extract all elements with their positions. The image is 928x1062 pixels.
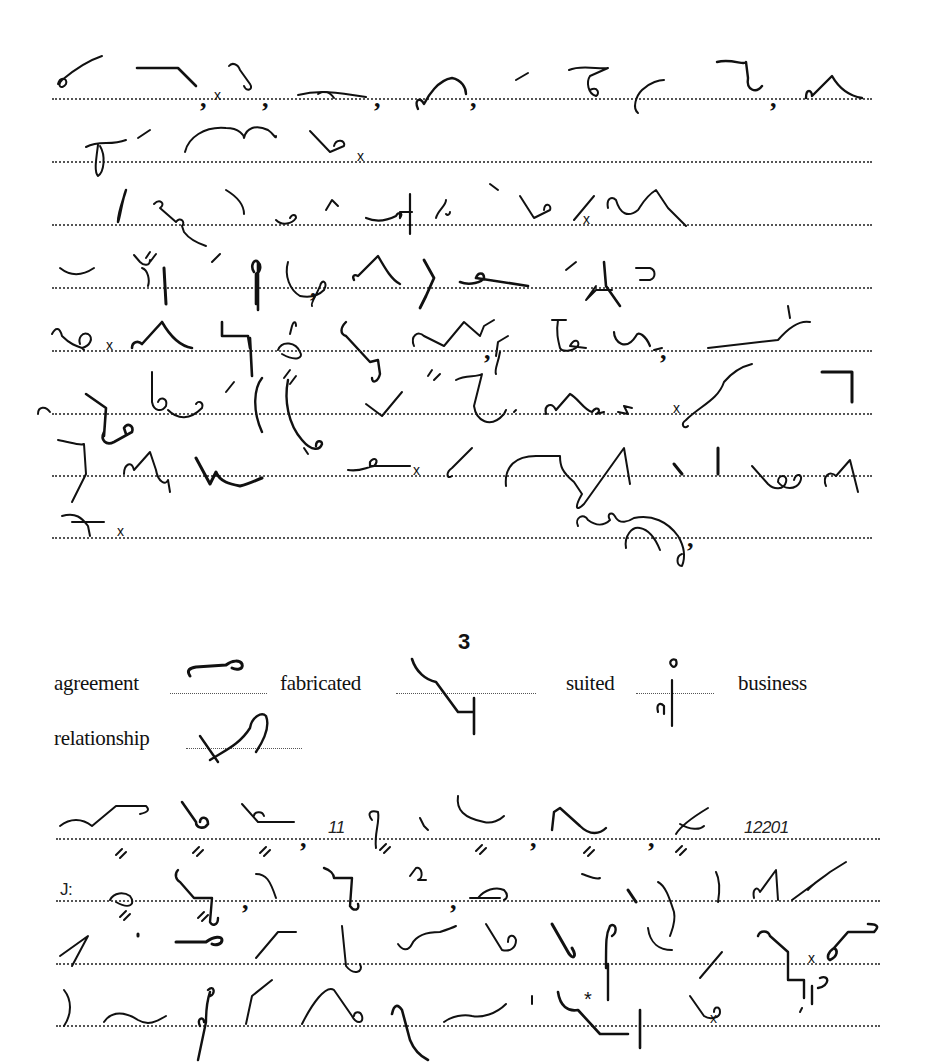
comma: , (374, 86, 381, 112)
ruled-line (56, 1025, 880, 1027)
full-stop-cross: x (710, 1010, 717, 1026)
full-stop-cross: x (673, 400, 680, 416)
comma: , (300, 826, 307, 852)
comma: , (530, 826, 537, 852)
comma: , (262, 86, 269, 112)
key-word-outlines (0, 0, 928, 1062)
comma: , (660, 338, 667, 364)
ruled-line (52, 537, 872, 539)
comma: , (450, 888, 457, 914)
ruled-line (56, 963, 880, 965)
key-word-agreement: agreement (54, 671, 139, 696)
shorthand-page: x x x x x x x , , , , , , , , , 3 agreem… (0, 0, 928, 1062)
key-word-line (396, 693, 536, 694)
key-word-business: business (738, 671, 807, 696)
key-word-line (186, 748, 302, 749)
full-stop-cross: x (106, 337, 113, 353)
ruled-line (56, 838, 880, 840)
ruled-line (52, 475, 872, 477)
key-word-suited: suited (566, 671, 614, 696)
comma: , (648, 826, 655, 852)
key-word-line (170, 693, 267, 694)
asterisk: * (584, 988, 592, 1011)
ruled-line (52, 98, 872, 100)
comma: , (242, 888, 249, 914)
comma: , (200, 86, 207, 112)
comma: , (687, 526, 694, 552)
ruled-line (52, 350, 872, 352)
shorthand-passage-3 (0, 0, 928, 1062)
comma: , (484, 338, 491, 364)
ruled-line (52, 287, 872, 289)
full-stop-cross: x (117, 523, 124, 539)
ruled-line (52, 413, 872, 415)
full-stop-cross: x (583, 211, 590, 227)
figure-11: 11 (328, 818, 345, 838)
shorthand-passage-2 (0, 0, 928, 1062)
comma: , (310, 276, 317, 302)
key-word-fabricated: fabricated (280, 671, 361, 696)
comma: , (470, 86, 477, 112)
figure-12201: 12201 (744, 818, 789, 838)
key-word-line (636, 693, 714, 694)
comma: , (770, 86, 777, 112)
full-stop-cross: x (357, 148, 364, 164)
section-heading: 3 (0, 629, 928, 655)
full-stop-cross: x (808, 950, 815, 966)
ruled-line (52, 224, 872, 226)
ruled-line (52, 161, 872, 163)
salutation-mark: J: (60, 880, 72, 900)
full-stop-cross: x (413, 462, 420, 478)
ruled-line (56, 900, 880, 902)
full-stop-cross: x (214, 87, 221, 103)
key-word-relationship: relationship (54, 726, 150, 751)
